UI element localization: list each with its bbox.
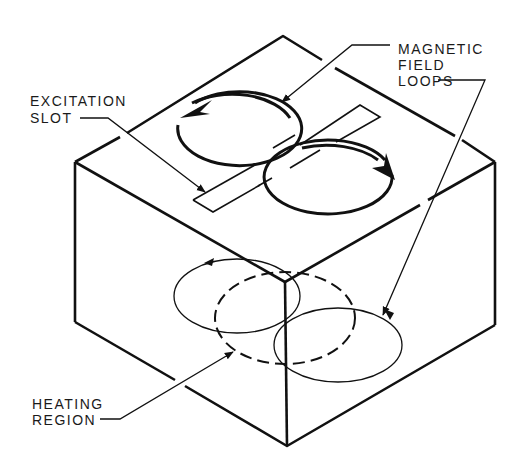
- svg-text:FIELD: FIELD: [398, 57, 445, 73]
- svg-text:EXCITATION: EXCITATION: [30, 93, 127, 109]
- magnetic-field-loops-top: [178, 92, 392, 214]
- label-heating-region: HEATING REGION: [32, 396, 104, 428]
- svg-text:MAGNETIC: MAGNETIC: [398, 41, 484, 57]
- svg-text:SLOT: SLOT: [30, 110, 73, 126]
- label-magnetic-field-loops: MAGNETIC FIELD LOOPS: [398, 41, 484, 89]
- svg-text:HEATING: HEATING: [32, 396, 104, 412]
- heating-loops: [174, 259, 402, 382]
- block-outline: [75, 36, 495, 446]
- heating-loop-arrow-icon: [204, 258, 214, 266]
- block-diagram: MAGNETIC FIELD LOOPS EXCITATION SLOT HEA…: [0, 0, 522, 473]
- svg-text:LOOPS: LOOPS: [398, 73, 454, 89]
- svg-text:REGION: REGION: [32, 412, 96, 428]
- excitation-slot: [193, 105, 380, 212]
